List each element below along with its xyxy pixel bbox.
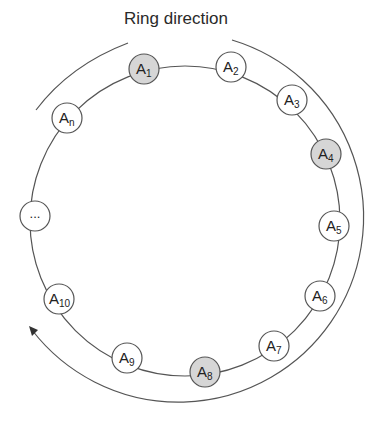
node-a1: A1 [129,54,159,84]
outer-arc-direction [32,40,364,402]
node-a3: A3 [277,85,307,115]
node-a8: A8 [190,357,220,387]
ring-diagram: A1A2A3A4A5A6A7A8A9A10...An [0,0,380,426]
node-a4: A4 [311,139,341,169]
arrow-head-icon [29,326,38,336]
node-a7: A7 [259,331,289,361]
node-a5: A5 [319,211,349,241]
outer-arc-start [36,43,128,110]
node-a6: A6 [305,281,335,311]
node-label: ... [30,206,41,221]
node-a2: A2 [216,52,246,82]
node-ellipsis: ... [20,201,50,231]
node-a10: A10 [44,284,74,314]
node-an: An [52,103,82,133]
node-a9: A9 [112,343,142,373]
